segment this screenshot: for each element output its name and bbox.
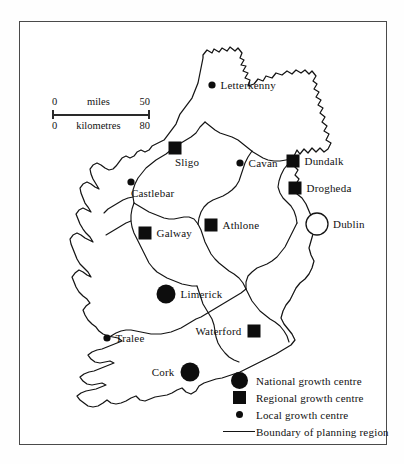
place-marker-limerick: Limerick: [157, 285, 223, 304]
place-marker-cork: Cork: [152, 363, 200, 382]
scale-km-end: 80: [140, 120, 151, 132]
place-label-letterkenny: Letterkenny: [221, 79, 277, 91]
scale-bar-graphic: [52, 110, 150, 119]
scale-kilometres-row: 0 kilometres 80: [52, 120, 150, 132]
place-marker-dundalk: Dundalk: [287, 155, 345, 168]
drogheda-symbol: [289, 182, 302, 195]
legend-label-boundary: Boundary of planning region: [256, 426, 389, 438]
cavan-symbol: [236, 159, 243, 166]
legend-item-regional: Regional growth centre: [222, 389, 384, 406]
legend-label-national: National growth centre: [256, 375, 362, 387]
cork-symbol: [181, 363, 200, 382]
place-label-limerick: Limerick: [181, 288, 223, 300]
sligo-symbol: [169, 142, 182, 155]
local-growth-centre-symbol: [222, 411, 256, 418]
scale-tick-start: [52, 110, 54, 119]
regional-growth-centre-symbol: [222, 391, 256, 404]
dublin-symbol: [306, 213, 328, 235]
place-label-drogheda: Drogheda: [307, 182, 352, 194]
legend-item-national: National growth centre: [222, 372, 384, 389]
tralee-symbol: [103, 334, 110, 341]
dundalk-symbol: [287, 155, 300, 168]
place-marker-tralee: Tralee: [103, 332, 144, 344]
legend-item-local: Local growth centre: [222, 406, 384, 423]
place-label-galway: Galway: [157, 227, 193, 239]
place-marker-castlebar: Castlebar: [127, 178, 174, 198]
scale-bar-line: [52, 114, 150, 116]
place-marker-drogheda: Drogheda: [289, 182, 352, 195]
boundary-line-symbol: [222, 431, 256, 432]
map-page: LetterkennySligoCavanDundalkDroghedaCast…: [0, 0, 404, 464]
map-legend: National growth centre Regional growth c…: [222, 372, 384, 440]
place-label-cavan: Cavan: [249, 157, 278, 169]
place-label-athlone: Athlone: [223, 219, 260, 231]
place-marker-letterkenny: Letterkenny: [208, 79, 276, 91]
place-label-castlebar: Castlebar: [131, 187, 174, 199]
waterford-symbol: [248, 325, 261, 338]
place-label-tralee: Tralee: [116, 332, 145, 344]
legend-label-local: Local growth centre: [256, 409, 348, 421]
place-label-cork: Cork: [152, 366, 175, 378]
letterkenny-symbol: [208, 81, 215, 88]
place-label-waterford: Waterford: [195, 325, 241, 337]
place-marker-sligo: Sligo: [169, 142, 200, 168]
place-label-dublin: Dublin: [333, 218, 365, 230]
scale-miles-label: miles: [57, 96, 139, 108]
place-marker-galway: Galway: [139, 227, 193, 240]
place-marker-athlone: Athlone: [205, 219, 260, 232]
place-marker-cavan: Cavan: [236, 157, 278, 169]
legend-label-regional: Regional growth centre: [256, 392, 364, 404]
place-marker-dublin: Dublin: [306, 213, 365, 235]
scale-miles-end: 50: [140, 96, 151, 108]
scale-km-label: kilometres: [57, 120, 139, 132]
castlebar-symbol: [127, 178, 134, 185]
national-growth-centre-symbol: [222, 372, 256, 389]
place-label-sligo: Sligo: [175, 156, 200, 168]
limerick-symbol: [157, 285, 176, 304]
place-marker-waterford: Waterford: [195, 325, 260, 338]
scale-miles-row: 0 miles 50: [52, 96, 150, 108]
athlone-symbol: [205, 219, 218, 232]
place-label-dundalk: Dundalk: [305, 155, 345, 167]
scale-tick-end: [148, 110, 150, 119]
scale-bar: 0 miles 50 0 kilometres 80: [52, 96, 150, 138]
galway-symbol: [139, 227, 152, 240]
legend-item-boundary: Boundary of planning region: [222, 423, 384, 440]
